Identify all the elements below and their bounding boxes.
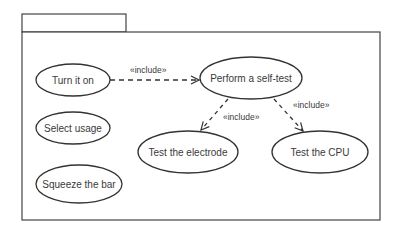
include-label: «include» [293,100,330,110]
svg-text:Perform a self-test: Perform a self-test [210,73,292,84]
use-case-diagram: «include» «include» «include» Turn it on… [0,0,397,230]
svg-text:Test the CPU: Test the CPU [291,147,350,158]
use-case-select-usage[interactable]: Select usage [36,112,110,144]
svg-text:Turn it on: Turn it on [52,75,94,86]
use-case-test-electrode[interactable]: Test the electrode [138,131,238,173]
svg-text:Test the electrode: Test the electrode [149,147,228,158]
use-case-turn-it-on[interactable]: Turn it on [36,64,110,96]
svg-text:Select usage: Select usage [44,123,102,134]
use-case-squeeze-the-bar[interactable]: Squeeze the bar [36,165,122,203]
include-label: «include» [130,65,167,75]
svg-text:Squeeze the bar: Squeeze the bar [42,179,116,190]
use-case-perform-self-test[interactable]: Perform a self-test [200,57,302,99]
use-case-test-cpu[interactable]: Test the CPU [272,131,368,173]
package-tab [22,14,126,32]
include-label: «include» [223,112,260,122]
